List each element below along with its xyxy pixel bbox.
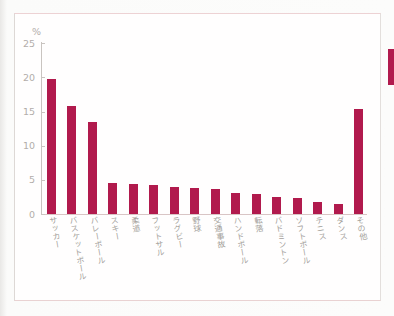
bar [334, 204, 343, 214]
bar [149, 185, 158, 214]
y-tick-mark [41, 77, 45, 78]
y-axis-line [41, 42, 42, 214]
y-tick-label: 10 [15, 140, 35, 151]
y-tick-mark [41, 112, 45, 113]
bar [313, 202, 322, 214]
bar [47, 79, 56, 214]
y-tick-label: 5 [15, 174, 35, 185]
y-tick-mark [41, 43, 45, 44]
y-tick-label: 15 [15, 106, 35, 117]
bar [231, 193, 240, 214]
bar [67, 106, 76, 214]
bar [211, 189, 220, 214]
x-axis-line [41, 214, 367, 215]
y-tick-label: 20 [15, 72, 35, 83]
y-axis-unit-label: % [32, 26, 41, 37]
bar [108, 183, 117, 214]
bar [293, 198, 302, 214]
y-tick-label: 0 [15, 209, 35, 220]
scanned-page: % 2520151050サッカーバスケットボールバレーボールスキー柔道フットサル… [0, 0, 394, 316]
bar [170, 187, 179, 214]
page-edge-tab-marker [388, 49, 394, 85]
bar [88, 122, 97, 214]
y-tick-label: 25 [15, 38, 35, 49]
bar [190, 188, 199, 214]
bar [272, 197, 281, 214]
bar [129, 184, 138, 214]
y-tick-mark [41, 146, 45, 147]
y-tick-mark [41, 180, 45, 181]
y-tick-mark [41, 214, 45, 215]
bar [354, 109, 363, 214]
bar [252, 194, 261, 214]
